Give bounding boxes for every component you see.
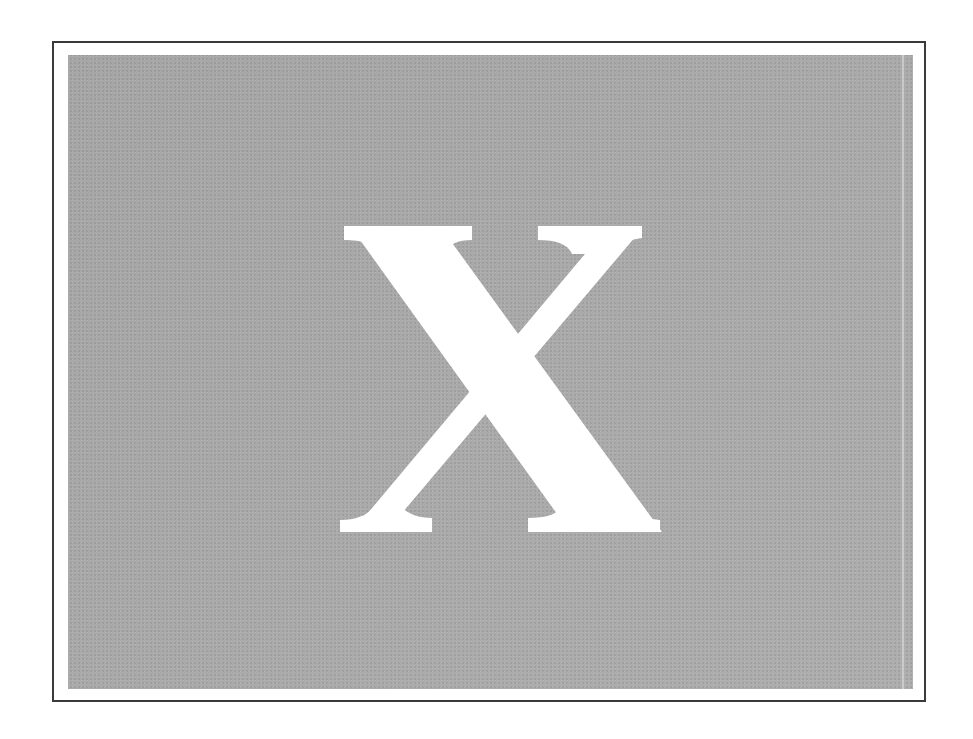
x-letter-icon <box>300 160 700 580</box>
large-x-glyph <box>300 160 700 580</box>
panel-edge-streak <box>902 55 904 689</box>
